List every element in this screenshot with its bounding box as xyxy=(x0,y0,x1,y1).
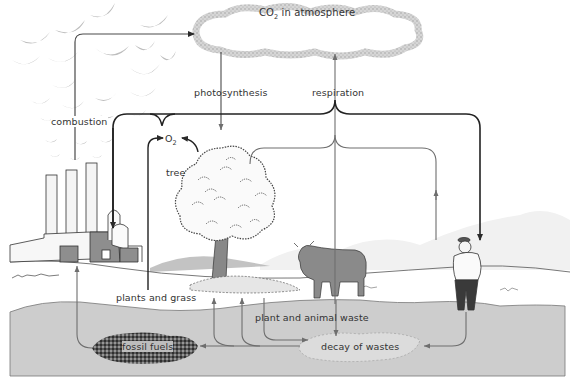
label-fossil-fuels: fossil fuels xyxy=(122,341,173,352)
hill-dark xyxy=(150,256,270,272)
label-respiration: respiration xyxy=(312,87,364,98)
label-plants-and-grass: plants and grass xyxy=(116,292,196,303)
label-plant-and-animal-waste: plant and animal waste xyxy=(255,312,369,323)
tree-o2-arrow xyxy=(182,138,198,152)
factory-smokestacks xyxy=(10,163,142,262)
label-oxygen: O2 xyxy=(165,133,177,147)
smoke-clouds xyxy=(12,3,176,160)
label-tree: tree xyxy=(166,167,186,178)
label-combustion: combustion xyxy=(51,116,108,127)
tree xyxy=(175,146,300,293)
label-decay-of-wastes: decay of wastes xyxy=(321,341,399,352)
carbon-cycle-diagram xyxy=(0,0,574,384)
label-co2-atmosphere: CO2 in atmosphere xyxy=(259,7,355,21)
label-photosynthesis: photosynthesis xyxy=(194,87,268,98)
